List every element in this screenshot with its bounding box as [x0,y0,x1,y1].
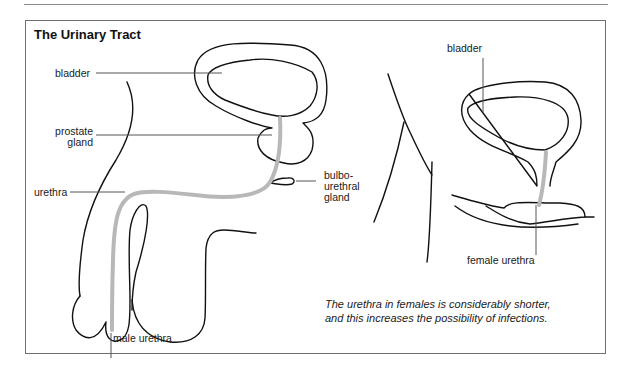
male-urethra-path [112,118,280,330]
label-prostate-gland: prostate gland [51,126,93,148]
label-male-urethra: male urethra [113,333,172,344]
label-bulbo-line3: gland [324,192,360,203]
female-pelvic-floor-lower [455,206,578,227]
label-male-bladder: bladder [55,68,90,79]
male-bladder-outer [195,43,327,164]
figure-caption: The urethra in females is considerably s… [325,298,551,325]
male-body-outline [79,82,132,296]
male-bladder-inner [208,59,317,116]
female-urethra-path [539,152,546,205]
male-scrotum-outline [132,230,256,342]
label-female-bladder: bladder [447,43,482,54]
female-body-outline-front [427,162,432,262]
caption-line1: The urethra in females is considerably s… [325,298,551,312]
label-urethra: urethra [34,187,67,198]
label-female-urethra: female urethra [467,255,535,266]
label-bulbo-urethral-gland: bulbo- urethral gland [324,170,360,203]
female-body-outline-leg [374,122,404,222]
label-prostate-line2: gland [51,137,93,148]
caption-line2: and this increases the possibility of in… [325,312,551,326]
figure-title: The Urinary Tract [34,27,141,42]
female-pelvic-floor-upper [452,195,585,224]
